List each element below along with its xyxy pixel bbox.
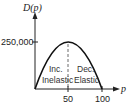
left-region-label-bottom: Inelastic (42, 75, 74, 85)
right-region-label-bottom: Elastic (74, 75, 100, 85)
demand-chart: D(p) 250,000 50 100 p Inc. Inelastic Dec… (0, 0, 127, 112)
y-axis-label: D(p) (22, 2, 43, 14)
x-axis-label: p (120, 83, 126, 94)
y-tick-label: 250,000 (1, 37, 34, 47)
right-region-label-top: Dec. (77, 64, 94, 74)
x-tick-label-100: 100 (95, 94, 110, 104)
left-region-label-top: Inc. (49, 64, 63, 74)
x-axis-arrow-icon (113, 87, 120, 92)
y-axis-arrow-icon (33, 12, 38, 19)
x-tick-label-50: 50 (63, 94, 73, 104)
